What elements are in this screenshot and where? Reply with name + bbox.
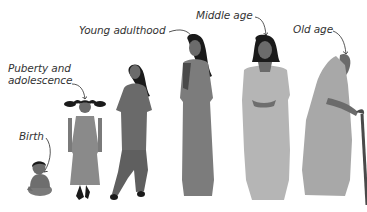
figure-young-adult-saree (180, 34, 214, 196)
figure-young-adulthood (110, 65, 152, 200)
figure-birth (27, 162, 52, 197)
arrow-puberty (72, 84, 85, 99)
figure-puberty (64, 100, 106, 200)
arrow-old-age (333, 31, 346, 54)
figure-old-age (302, 54, 367, 205)
arrow-middle-age (255, 17, 266, 35)
figure-middle-age (242, 35, 290, 200)
life-stages-illustration (0, 0, 367, 212)
